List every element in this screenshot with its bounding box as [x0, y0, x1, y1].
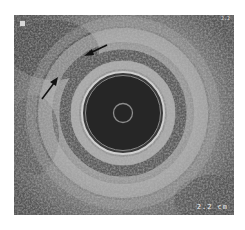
ultrasound-image: 2.2 2.2 cm — [14, 15, 234, 215]
lumen — [86, 76, 161, 151]
scale-label: 2.2 cm — [197, 203, 228, 211]
top-right-label: 2.2 — [221, 15, 230, 21]
ultrasound-graphic — [14, 15, 234, 215]
marker-icon — [20, 21, 25, 26]
